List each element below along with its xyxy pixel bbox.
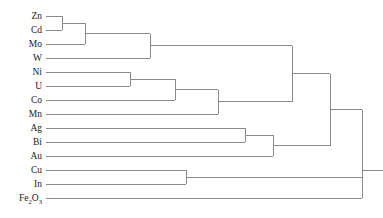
leaf-label-cd: Cd — [31, 25, 42, 35]
dendrogram-figure: ZnCdMoWNiUCoMnAgBiAuCuInFe2O3 — [0, 0, 383, 218]
leaf-label-ni: Ni — [33, 67, 43, 77]
leaf-label-co: Co — [31, 95, 42, 105]
leaf-label-cu: Cu — [31, 165, 42, 175]
leaf-label-u: U — [35, 81, 42, 91]
dendrogram-links-group — [46, 16, 383, 198]
leaf-label-au: Au — [30, 151, 42, 161]
leaf-label-bi: Bi — [33, 137, 42, 147]
leaf-label-in: In — [34, 179, 42, 189]
leaf-label-w: W — [33, 53, 42, 63]
leaf-label-ag: Ag — [30, 123, 42, 133]
leaf-labels-group: ZnCdMoWNiUCoMnAgBiAuCuInFe2O3 — [19, 11, 43, 205]
leaf-label-zn: Zn — [31, 11, 42, 21]
leaf-label-mn: Mn — [29, 109, 42, 119]
leaf-label-fe2o3: Fe2O3 — [19, 193, 43, 205]
leaf-label-mo: Mo — [29, 39, 42, 49]
dendrogram-canvas: ZnCdMoWNiUCoMnAgBiAuCuInFe2O3 — [0, 0, 383, 218]
